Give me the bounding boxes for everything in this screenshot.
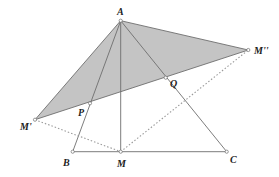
label-p: P	[78, 107, 85, 118]
point-m2	[247, 48, 250, 51]
point-c	[225, 150, 228, 153]
point-m	[119, 150, 122, 153]
label-a: A	[116, 6, 124, 17]
label-m-prime: M'	[19, 121, 32, 132]
point-q	[164, 76, 167, 79]
label-b: B	[62, 157, 70, 168]
point-a	[119, 19, 122, 22]
label-m: M	[116, 158, 127, 169]
point-p	[88, 102, 91, 105]
geometry-diagram: A B M C M' M'' P Q	[0, 0, 279, 177]
shaded-triangle-a-m1-m2	[35, 21, 248, 120]
label-m-double-prime: M''	[253, 45, 269, 56]
label-c: C	[230, 154, 237, 165]
segment-m1-m	[35, 120, 121, 152]
label-q: Q	[170, 78, 177, 89]
point-b	[71, 150, 74, 153]
point-m1	[33, 118, 36, 121]
